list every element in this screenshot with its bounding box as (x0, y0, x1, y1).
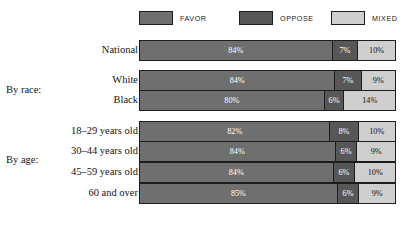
table-row: National 84% 7% 10% (0, 40, 406, 61)
row-label-white: White (112, 75, 138, 86)
legend-label-oppose: OPPOSE (280, 14, 314, 23)
bar-age-18-29: 82% 8% 10% (139, 121, 396, 142)
chart-group-by-race: By race: White 84% 7% 9% Black 80% 6% 14… (0, 70, 406, 112)
bar-segment-mixed: 9% (361, 71, 395, 90)
bar-segment-favor: 80% (140, 91, 324, 110)
bar-segment-favor: 84% (140, 41, 332, 60)
bar-segment-favor: 84% (140, 142, 335, 161)
table-row: 45–59 years old 84% 6% 10% (0, 162, 406, 183)
bar-segment-oppose: 6% (324, 91, 344, 110)
table-row: Black 80% 6% 14% (0, 90, 406, 111)
chart-group-by-age: By age: 18–29 years old 82% 8% 10% 30–44… (0, 121, 406, 205)
row-label-age-30-44: 30–44 years old (71, 146, 138, 157)
legend-item-mixed: MIXED (331, 11, 396, 25)
table-row: White 84% 7% 9% (0, 70, 406, 91)
bar-segment-mixed: 10% (357, 41, 395, 60)
bar-segment-oppose: 7% (332, 41, 358, 60)
bar-segment-oppose: 6% (335, 142, 357, 161)
bar-national: 84% 7% 10% (139, 40, 396, 61)
bar-age-60-over: 85% 6% 9% (139, 183, 396, 204)
chart-group-national: National 84% 7% 10% (0, 40, 406, 62)
bar-segment-oppose: 6% (333, 163, 355, 182)
legend-label-favor: FAVOR (180, 14, 207, 23)
bar-segment-oppose: 8% (329, 122, 357, 141)
row-label-age-18-29: 18–29 years old (71, 126, 138, 137)
chart-legend: FAVOR OPPOSE MIXED (139, 9, 396, 27)
bar-segment-oppose: 7% (334, 71, 360, 90)
bar-segment-favor: 84% (140, 71, 334, 90)
legend-swatch-mixed-icon (331, 11, 365, 25)
table-row: 18–29 years old 82% 8% 10% (0, 121, 406, 142)
row-label-black: Black (114, 95, 139, 106)
row-label-age-60-over: 60 and over (88, 188, 138, 199)
table-row: 30–44 years old 84% 6% 9% (0, 141, 406, 162)
bar-segment-mixed: 10% (358, 122, 395, 141)
bar-segment-mixed: 10% (354, 163, 395, 182)
bar-age-30-44: 84% 6% 9% (139, 141, 396, 162)
table-row: 60 and over 85% 6% 9% (0, 183, 406, 204)
legend-item-oppose: OPPOSE (239, 11, 331, 25)
row-label-age-45-59: 45–59 years old (71, 167, 138, 178)
bar-segment-mixed: 14% (343, 91, 395, 110)
bar-segment-favor: 85% (140, 184, 337, 203)
legend-item-favor: FAVOR (139, 11, 239, 25)
bar-segment-mixed: 9% (358, 184, 395, 203)
bar-black: 80% 6% 14% (139, 90, 396, 111)
legend-swatch-oppose-icon (239, 11, 273, 25)
bar-segment-oppose: 6% (337, 184, 358, 203)
bar-segment-mixed: 9% (356, 142, 395, 161)
row-label-national: National (102, 45, 138, 56)
bar-white: 84% 7% 9% (139, 70, 396, 91)
legend-swatch-favor-icon (139, 11, 173, 25)
bar-segment-favor: 82% (140, 122, 329, 141)
stacked-bar-chart: FAVOR OPPOSE MIXED National 84% 7% 10% B… (0, 0, 406, 228)
bar-segment-favor: 84% (140, 163, 333, 182)
bar-age-45-59: 84% 6% 10% (139, 162, 396, 183)
legend-label-mixed: MIXED (372, 14, 398, 23)
